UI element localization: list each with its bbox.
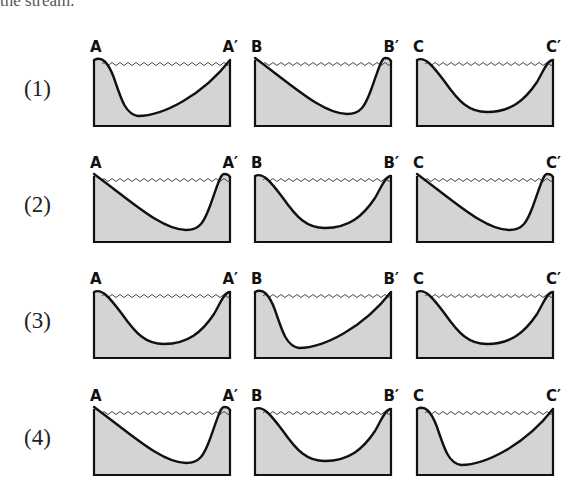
option-row: (4)AA′BB′CC′: [0, 389, 580, 489]
cross-section-panel: CC′: [415, 389, 557, 481]
section-end-label: A′: [222, 272, 238, 287]
section-end-label: B′: [384, 40, 399, 55]
section-end-label: C′: [546, 40, 561, 55]
section-start-label: C: [413, 156, 424, 171]
cross-section-panel: BB′: [253, 156, 395, 248]
cross-section-panel: BB′: [253, 40, 395, 132]
section-end-label: C′: [546, 272, 561, 287]
cross-section-panel: AA′: [92, 272, 234, 364]
stream-channel-profile: [415, 56, 557, 130]
section-start-label: C: [413, 389, 424, 404]
section-end-label: A′: [222, 389, 238, 404]
section-start-label: B: [251, 156, 262, 171]
cross-section-panel: BB′: [253, 389, 395, 481]
section-end-label: A′: [222, 40, 238, 55]
cross-section-panel: CC′: [415, 40, 557, 132]
stream-channel-profile: [92, 288, 234, 362]
cross-section-panel: AA′: [92, 40, 234, 132]
stream-channel-profile: [92, 172, 234, 246]
option-row: (1)AA′BB′CC′: [0, 40, 580, 140]
cross-section-panel: CC′: [415, 272, 557, 364]
section-start-label: A: [90, 40, 102, 55]
section-end-label: B′: [384, 272, 399, 287]
section-start-label: C: [413, 272, 424, 287]
stream-channel-profile: [92, 56, 234, 130]
section-start-label: A: [90, 272, 102, 287]
stream-channel-profile: [253, 56, 395, 130]
stream-channel-profile: [415, 405, 557, 479]
option-number: (2): [24, 192, 51, 218]
option-number: (1): [24, 76, 51, 102]
stream-channel-profile: [253, 172, 395, 246]
section-start-label: A: [90, 389, 102, 404]
cross-section-panel: CC′: [415, 156, 557, 248]
stream-channel-profile: [92, 405, 234, 479]
section-start-label: A: [90, 156, 102, 171]
section-end-label: C′: [546, 389, 561, 404]
cross-section-panel: BB′: [253, 272, 395, 364]
section-start-label: B: [251, 389, 262, 404]
stream-channel-profile: [415, 172, 557, 246]
stream-channel-profile: [253, 405, 395, 479]
option-number: (4): [24, 425, 51, 451]
section-end-label: B′: [384, 389, 399, 404]
cross-section-panel: AA′: [92, 156, 234, 248]
stream-channel-profile: [253, 288, 395, 362]
section-end-label: C′: [546, 156, 561, 171]
option-row: (3)AA′BB′CC′: [0, 272, 580, 372]
section-start-label: C: [413, 40, 424, 55]
option-row: (2)AA′BB′CC′: [0, 156, 580, 256]
cross-section-panel: AA′: [92, 389, 234, 481]
section-end-label: A′: [222, 156, 238, 171]
option-number: (3): [24, 308, 51, 334]
section-start-label: B: [251, 40, 262, 55]
section-end-label: B′: [384, 156, 399, 171]
section-start-label: B: [251, 272, 262, 287]
cut-off-question-text: the stream.: [0, 0, 75, 11]
stream-channel-profile: [415, 288, 557, 362]
